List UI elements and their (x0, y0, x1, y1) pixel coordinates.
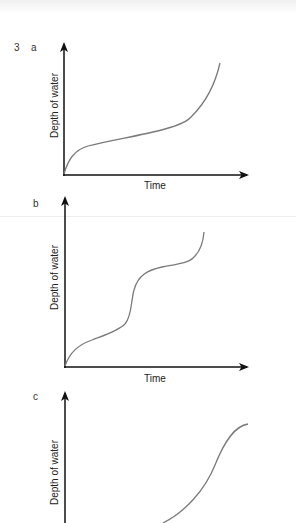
graph-b (64, 198, 247, 368)
question-number: 3 (14, 42, 20, 53)
part-b-label: b (33, 198, 39, 209)
graph-a-curve (64, 63, 220, 174)
part-a-label: a (31, 42, 37, 53)
graph-b-curve (65, 232, 204, 366)
graph-a-x-label: Time (144, 180, 166, 191)
graph-c-y-label: Depth of water (49, 433, 60, 513)
graph-b-x-label: Time (144, 373, 166, 384)
graph-c (65, 393, 248, 523)
graphs-canvas (0, 0, 296, 523)
graph-a (63, 44, 247, 176)
part-c-label: c (33, 391, 38, 402)
graph-a-y-label: Depth of water (49, 66, 60, 146)
graph-c-curve (163, 424, 248, 523)
graph-b-y-label: Depth of water (49, 238, 60, 318)
